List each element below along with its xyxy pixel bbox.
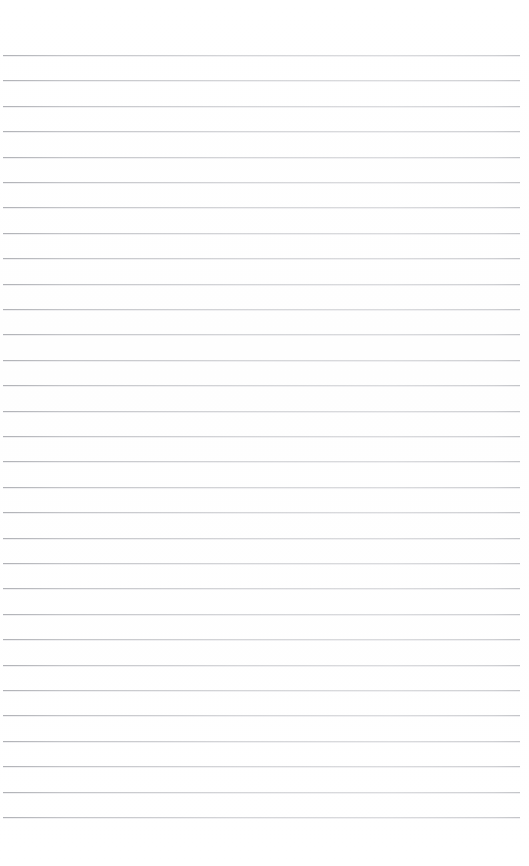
- rule-line: [3, 80, 520, 81]
- rule-line: [3, 182, 520, 183]
- rule-line: [3, 233, 520, 234]
- rule-line: [3, 512, 520, 513]
- rule-line: [3, 766, 520, 767]
- rule-line: [3, 207, 520, 208]
- rule-line: [3, 461, 520, 462]
- rule-line: [3, 436, 520, 437]
- rule-line: [3, 588, 520, 589]
- rule-line: [3, 157, 520, 158]
- rule-line: [3, 715, 520, 716]
- rule-line: [3, 131, 520, 132]
- rule-line: [3, 614, 520, 615]
- rule-line: [3, 360, 520, 361]
- rule-line: [3, 385, 520, 386]
- rule-line: [3, 487, 520, 488]
- rule-line: [3, 792, 520, 793]
- rule-line: [3, 334, 520, 335]
- rule-line: [3, 411, 520, 412]
- rule-line: [3, 284, 520, 285]
- rule-line: [3, 309, 520, 310]
- rule-line: [3, 258, 520, 259]
- rule-line: [3, 665, 520, 666]
- rule-line: [3, 639, 520, 640]
- ruled-lines-layer: [0, 0, 529, 866]
- lined-paper-page: [0, 0, 529, 866]
- rule-line: [3, 690, 520, 691]
- rule-line: [3, 563, 520, 564]
- rule-line: [3, 538, 520, 539]
- rule-line: [3, 55, 520, 56]
- rule-line: [3, 106, 520, 107]
- bottom-margin-area: [0, 818, 529, 866]
- rule-line: [3, 741, 520, 742]
